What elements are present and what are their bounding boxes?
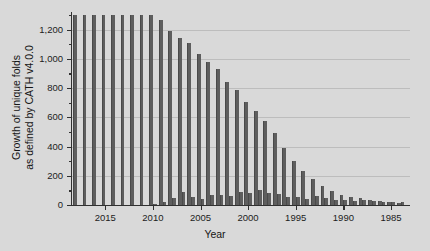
bar-series-group bbox=[72, 12, 410, 205]
y-axis-minor-tick bbox=[69, 161, 72, 162]
bar bbox=[182, 192, 186, 205]
y-axis-tick bbox=[67, 59, 72, 60]
y-axis-tick bbox=[67, 88, 72, 89]
bar bbox=[229, 196, 233, 205]
x-axis-tick bbox=[248, 206, 249, 210]
x-axis-title: Year bbox=[0, 228, 430, 240]
bar bbox=[225, 82, 229, 206]
x-axis-tick-label: 1985 bbox=[380, 212, 401, 223]
bar bbox=[258, 190, 262, 205]
bar bbox=[121, 15, 125, 205]
y-axis-tick bbox=[67, 147, 72, 148]
bar bbox=[206, 62, 210, 205]
bar bbox=[235, 90, 239, 206]
chart-figure: Growth of unique folds as defined by CAT… bbox=[0, 0, 430, 251]
y-axis-tick-label: 1,000 bbox=[0, 53, 63, 64]
x-axis-tick-label: 2000 bbox=[238, 212, 259, 223]
x-axis-tick-label: 1990 bbox=[333, 212, 354, 223]
bar bbox=[244, 102, 248, 205]
bar bbox=[130, 15, 134, 205]
bar bbox=[296, 197, 300, 205]
bar bbox=[73, 15, 77, 205]
bar bbox=[92, 15, 96, 205]
bar bbox=[191, 197, 195, 205]
x-axis-tick bbox=[391, 206, 392, 210]
bar bbox=[111, 15, 115, 205]
y-axis-tick-label: 200 bbox=[0, 170, 63, 181]
y-axis-tick bbox=[67, 30, 72, 31]
y-axis-minor-tick bbox=[69, 73, 72, 74]
bar bbox=[168, 31, 172, 205]
bar bbox=[187, 43, 191, 205]
y-axis-tick bbox=[67, 176, 72, 177]
bar bbox=[197, 54, 201, 205]
x-axis-tick bbox=[153, 206, 154, 210]
y-axis-tick-label: 0 bbox=[0, 199, 63, 210]
x-axis-tick bbox=[296, 206, 297, 210]
bar bbox=[239, 192, 243, 205]
bar bbox=[267, 193, 271, 205]
bar bbox=[149, 15, 153, 205]
bar bbox=[178, 38, 182, 205]
x-axis-line bbox=[72, 205, 410, 206]
y-axis-minor-tick bbox=[69, 190, 72, 191]
bar bbox=[220, 195, 224, 205]
bar bbox=[172, 198, 176, 205]
y-axis-tick-label: 1,200 bbox=[0, 24, 63, 35]
bar bbox=[277, 194, 281, 205]
bar bbox=[210, 195, 214, 205]
bar bbox=[102, 15, 106, 205]
y-axis-tick-label: 400 bbox=[0, 141, 63, 152]
bar bbox=[140, 15, 144, 205]
bar bbox=[159, 20, 163, 205]
y-axis-minor-tick bbox=[69, 44, 72, 45]
y-axis-minor-tick bbox=[69, 103, 72, 104]
x-axis-tick bbox=[105, 206, 106, 210]
x-axis-tick-label: 2010 bbox=[142, 212, 163, 223]
y-axis-minor-tick bbox=[69, 15, 72, 16]
plot-area bbox=[72, 12, 410, 205]
x-axis-tick-label: 2015 bbox=[95, 212, 116, 223]
bar bbox=[286, 197, 290, 205]
y-axis-minor-tick bbox=[69, 132, 72, 133]
bar bbox=[315, 196, 319, 205]
bar bbox=[248, 193, 252, 205]
bar bbox=[216, 69, 220, 205]
x-axis-tick-label: 2005 bbox=[190, 212, 211, 223]
x-axis-tick bbox=[201, 206, 202, 210]
bar bbox=[83, 15, 87, 205]
x-axis-tick bbox=[343, 206, 344, 210]
y-axis-tick-label: 800 bbox=[0, 82, 63, 93]
x-axis-tick-label: 1995 bbox=[285, 212, 306, 223]
y-axis-tick bbox=[67, 117, 72, 118]
y-axis-tick-label: 600 bbox=[0, 111, 63, 122]
bar bbox=[324, 198, 328, 205]
y-axis-tick bbox=[67, 205, 72, 206]
